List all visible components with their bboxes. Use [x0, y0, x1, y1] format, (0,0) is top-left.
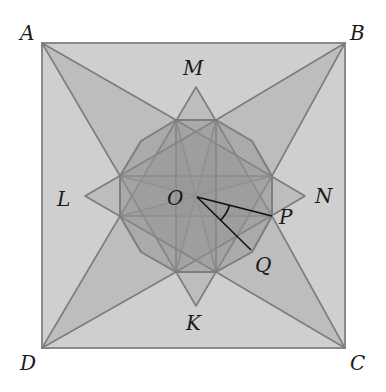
label-b: B — [349, 21, 365, 45]
label-n: N — [314, 184, 334, 208]
label-c: C — [350, 351, 365, 375]
label-o: O — [167, 186, 183, 210]
label-a: A — [18, 21, 34, 45]
label-d: D — [19, 351, 36, 375]
label-p: P — [278, 205, 293, 229]
label-l: L — [56, 187, 70, 211]
label-k: K — [185, 311, 202, 335]
geometry-diagram: A B C D M N K L O P Q — [0, 0, 386, 392]
label-q: Q — [255, 253, 271, 277]
label-m: M — [182, 56, 204, 80]
